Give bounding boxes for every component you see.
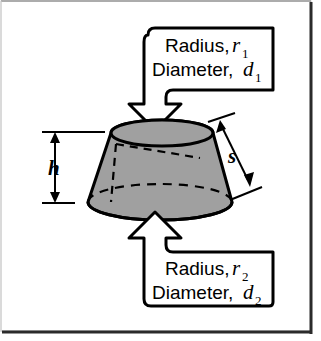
top-callout-line2-subscript: 1 (255, 70, 262, 85)
frustum-diagram-svg: Radius, r 1 Diameter, d 1 Radius, r 2 Di… (0, 0, 321, 341)
bottom-callout-line1-variable: r (232, 256, 241, 280)
top-callout-line2-label: Diameter, (152, 59, 233, 80)
frustum-top-face (111, 120, 213, 146)
top-callout-line1-variable: r (232, 33, 241, 57)
figure-container: Radius, r 1 Diameter, d 1 Radius, r 2 Di… (0, 0, 321, 341)
bottom-callout-line2-label: Diameter, (152, 282, 233, 303)
slant-label: s (227, 144, 236, 168)
top-callout-line1-label: Radius, (165, 35, 229, 56)
top-callout-line2-variable: d (243, 57, 254, 81)
height-label: h (48, 156, 60, 180)
bottom-callout-line2-subscript: 2 (255, 293, 262, 308)
bottom-callout-line1-label: Radius, (165, 258, 229, 279)
bottom-callout-line2-variable: d (243, 280, 254, 304)
